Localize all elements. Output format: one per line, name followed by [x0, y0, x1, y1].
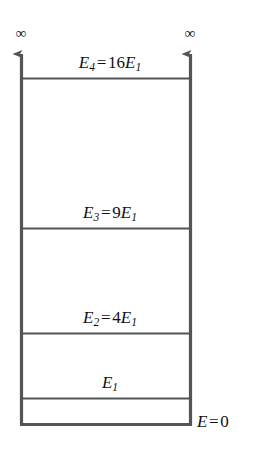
baseline-label: E=0	[197, 413, 229, 430]
energy-symbol-E4: E	[79, 53, 89, 72]
energy-label-E1: E1	[102, 374, 118, 394]
baseline-symbol: E	[197, 412, 207, 431]
energy-symbol-E1: E	[102, 373, 112, 392]
energy-coefficient-E4: 16	[108, 53, 125, 72]
energy-subscript-E1: 1	[112, 381, 118, 394]
energy-operator-E3: =	[99, 203, 112, 222]
energy-operator-E2: =	[99, 308, 112, 327]
energy-symbol-E2: E	[83, 308, 93, 327]
energy-label-E3: E3=9E1	[83, 204, 137, 224]
energy-symbol-E3: E	[83, 203, 93, 222]
energy-reference-subscript-E3: 1	[131, 211, 137, 224]
left-wall-infinity-label: ∞	[16, 26, 27, 41]
energy-reference-symbol-E2: E	[121, 308, 131, 327]
energy-reference-subscript-E2: 1	[131, 316, 137, 329]
energy-label-E2: E2=4E1	[83, 309, 137, 329]
energy-label-E4: E4=16E1	[79, 54, 141, 74]
energy-reference-symbol-E3: E	[121, 203, 131, 222]
energy-reference-subscript-E4: 1	[135, 61, 141, 74]
energy-operator-E4: =	[95, 53, 108, 72]
right-wall-infinity-label: ∞	[185, 26, 196, 41]
baseline-value: 0	[220, 412, 229, 431]
energy-level-diagram: ∞ ∞ E4=16E1 E3=9E1 E2=4E1 E1 E=0	[0, 0, 262, 456]
energy-coefficient-E3: 9	[112, 203, 121, 222]
energy-coefficient-E2: 4	[112, 308, 121, 327]
baseline-operator: =	[207, 412, 220, 431]
energy-reference-symbol-E4: E	[125, 53, 135, 72]
